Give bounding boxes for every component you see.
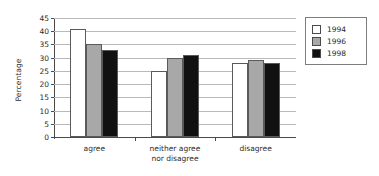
y-tick-mark [51,84,54,85]
y-tick-label: 25 [39,66,49,75]
y-tick-label: 5 [44,119,49,128]
bar [167,58,183,137]
plot-area: 051015202530354045 [54,18,296,138]
x-axis-line [54,137,296,138]
legend-swatch-icon [312,25,321,34]
y-tick-mark [51,137,54,138]
legend-item: 1998 [312,47,360,59]
y-tick-label: 40 [39,27,49,36]
y-tick-mark [51,31,54,32]
y-tick-mark [51,58,54,59]
legend-item: 1994 [312,23,360,35]
legend-item: 1996 [312,35,360,47]
x-tick-mark [215,138,216,141]
y-tick-label: 35 [39,40,49,49]
x-axis-category-label: agree [54,144,135,154]
bar [232,63,248,137]
gridline [54,18,296,19]
y-tick-label: 45 [39,14,49,23]
bar [264,63,280,137]
y-axis-title: Percentage [14,38,26,122]
x-tick-mark [135,138,136,141]
bar-chart-figure: Percentage 051015202530354045 1994199619… [0,0,379,176]
legend-swatch-icon [312,37,321,46]
bar [183,55,199,137]
bar [70,29,86,137]
y-tick-mark [51,44,54,45]
legend-swatch-icon [312,49,321,58]
legend-item-label: 1994 [327,25,346,34]
y-tick-mark [51,71,54,72]
legend-item-label: 1996 [327,37,346,46]
y-tick-label: 0 [44,133,49,142]
bar [151,71,167,137]
x-axis-category-label: disagree [215,144,296,154]
bar [86,44,102,137]
y-tick-mark [51,97,54,98]
gridline [54,31,296,32]
bar [102,50,118,137]
y-tick-label: 15 [39,93,49,102]
bar [248,60,264,137]
y-tick-label: 10 [39,106,49,115]
y-tick-mark [51,111,54,112]
x-axis-category-label: neither agree nor disagree [135,144,216,164]
y-tick-mark [51,124,54,125]
y-tick-label: 20 [39,80,49,89]
legend: 199419961998 [305,17,367,65]
y-tick-label: 30 [39,53,49,62]
y-tick-mark [51,18,54,19]
y-axis-line [54,18,55,139]
legend-item-label: 1998 [327,49,346,58]
